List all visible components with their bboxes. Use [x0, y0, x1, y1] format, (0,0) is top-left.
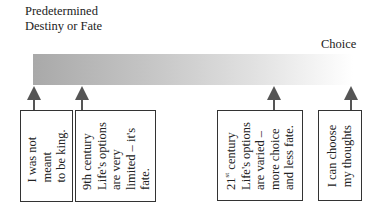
box-not-meant-to-be-king: I was not meant to be king.: [20, 110, 73, 202]
box-text: 21st century Life's options are varied –…: [224, 122, 297, 190]
box-choose-thoughts: I can choose my thoughts: [318, 110, 362, 201]
up-arrow-icon: [75, 86, 89, 110]
up-arrow-icon: [267, 86, 281, 110]
fate-label: Predetermined Destiny or Fate: [25, 4, 135, 34]
box-21st-century: 21st century Life's options are varied –…: [217, 110, 303, 201]
box-text: I was not meant to be king.: [25, 129, 69, 182]
box-text: 9th century Life's options are very limi…: [79, 122, 152, 190]
up-arrow-icon: [27, 86, 41, 110]
choice-label: Choice: [321, 37, 356, 52]
box-text: I can choose my thoughts: [325, 124, 354, 186]
box-9th-century: 9th century Life's options are very limi…: [75, 110, 156, 202]
up-arrow-icon: [344, 86, 358, 110]
fate-choice-gradient-bar: [33, 54, 353, 85]
